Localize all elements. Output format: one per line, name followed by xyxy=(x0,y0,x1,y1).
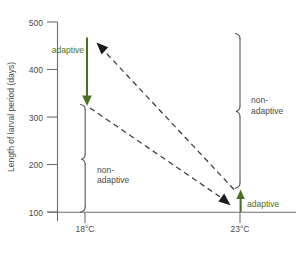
y-tick-label-200: 200 xyxy=(29,160,43,170)
annotation-adaptive-23c: adaptive xyxy=(247,199,279,209)
annotation-non-adaptive-18c-line2: adaptive xyxy=(97,175,129,185)
chart-background xyxy=(0,0,300,253)
chart-figure: 500 400 300 200 100 Length of larval per… xyxy=(0,0,300,253)
y-tick-label-300: 300 xyxy=(29,113,43,123)
y-tick-label-400: 400 xyxy=(29,65,43,75)
y-tick-label-100: 100 xyxy=(29,208,43,218)
y-tick-label-500: 500 xyxy=(29,18,43,28)
y-axis-title: Length of larval period (days) xyxy=(6,62,16,172)
x-category-label-18c: 18°C xyxy=(76,224,95,234)
annotation-non-adaptive-23c-line1: non- xyxy=(251,95,268,105)
annotation-non-adaptive-18c-line1: non- xyxy=(97,165,114,175)
annotation-non-adaptive-23c-line2: adaptive xyxy=(251,106,283,116)
x-category-label-23c: 23°C xyxy=(231,224,250,234)
annotation-adaptive-18c: adaptive xyxy=(52,45,84,55)
